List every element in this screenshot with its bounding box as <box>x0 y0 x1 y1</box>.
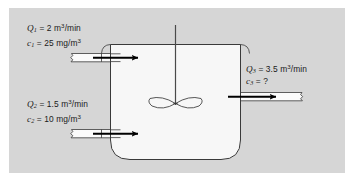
label-inlet-2: Q2 = 1.5 m3/min c2 = 10 mg/m3 <box>27 96 88 126</box>
outlet-3-flow-units-suffix: /min <box>291 64 307 74</box>
inlet-2-conc-units-exponent: 3 <box>78 113 82 120</box>
inlet-2-flow-symbol: Q <box>27 99 34 109</box>
inlet-2-flow-units-suffix: /min <box>72 99 88 109</box>
inlet-1-conc-units-exponent: 3 <box>78 37 82 44</box>
inlet-2-conc-units-prefix: mg/m <box>56 114 77 124</box>
figure-root: Q1 = 2 m3/min c1 = 25 mg/m3 Q2 = 1.5 m3/… <box>0 0 360 186</box>
label-outlet-3: Q3 = 3.5 m3/min c3 = ? <box>246 61 307 88</box>
tank-rim-right-curve <box>241 45 250 54</box>
inlet-1-flow-units-suffix: /min <box>65 23 81 33</box>
label-inlet-1: Q1 = 2 m3/min c1 = 25 mg/m3 <box>27 20 81 50</box>
outlet-3-flow-symbol: Q <box>246 64 253 74</box>
label-outlet-3-conc: c3 = ? <box>246 76 307 88</box>
inlet-2-flow-value: 1.5 <box>47 99 59 109</box>
label-inlet-2-conc: c2 = 10 mg/m3 <box>27 111 88 126</box>
label-inlet-1-conc: c1 = 25 mg/m3 <box>27 35 81 50</box>
label-outlet-3-flow: Q3 = 3.5 m3/min <box>246 61 307 76</box>
inlet-2-conc-value: 10 <box>44 114 54 124</box>
tank-rim-left-curve <box>102 45 111 54</box>
outlet-3-conc-value: ? <box>263 76 268 86</box>
inlet-1-conc-value: 25 <box>44 38 54 48</box>
label-inlet-1-flow: Q1 = 2 m3/min <box>27 20 81 35</box>
inlet-1-conc-units-prefix: mg/m <box>56 38 77 48</box>
outlet-3-flow-value: 3.5 <box>266 64 278 74</box>
inlet-1-flow-symbol: Q <box>27 23 34 33</box>
label-inlet-2-flow: Q2 = 1.5 m3/min <box>27 96 88 111</box>
